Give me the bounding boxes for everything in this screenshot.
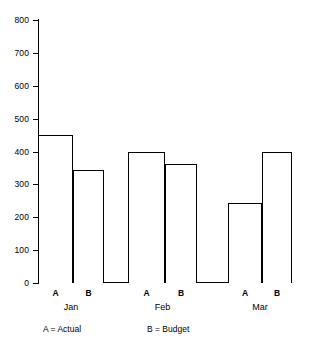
y-axis-tick: 700 xyxy=(33,53,38,54)
bar-jan-b xyxy=(73,170,104,283)
bar-feb-b xyxy=(165,164,197,283)
legend-entry-actual: A = Actual xyxy=(43,323,81,335)
y-axis-tick-label: 800 xyxy=(15,15,29,26)
bar-mar-a xyxy=(228,203,262,283)
y-axis-tick: 0 xyxy=(33,283,38,284)
x-axis-group-label-feb: Feb xyxy=(155,302,171,313)
y-axis-tick-label: 400 xyxy=(15,147,29,158)
y-axis-tick: 500 xyxy=(33,119,38,120)
legend-entry-budget: B = Budget xyxy=(147,323,189,335)
bar-feb-a xyxy=(128,152,165,284)
x-axis-group-label-jan: Jan xyxy=(64,302,79,313)
y-axis-tick: 800 xyxy=(33,20,38,21)
x-axis-bar-label: A xyxy=(52,288,58,298)
y-axis-tick-label: 600 xyxy=(15,81,29,92)
x-axis-bar-label: B xyxy=(85,288,91,298)
bar-chart: 8007006005004003002001000 ABABABJanFebMa… xyxy=(0,0,312,352)
bar-mar-b xyxy=(262,152,292,284)
x-axis-group-label-mar: Mar xyxy=(252,302,268,313)
chart-legend: A = ActualB = Budget xyxy=(0,323,312,337)
y-axis-tick-label: 200 xyxy=(15,212,29,223)
bar-jan-a xyxy=(38,135,73,283)
plot-area: 8007006005004003002001000 xyxy=(38,20,292,283)
x-axis-bar-label: B xyxy=(178,288,184,298)
x-axis-bar-label: B xyxy=(274,288,280,298)
y-axis-tick-label: 700 xyxy=(15,48,29,59)
y-axis-tick-label: 0 xyxy=(24,278,29,289)
x-axis-bar-label: A xyxy=(242,288,248,298)
x-axis-bar-label: A xyxy=(143,288,149,298)
y-axis-tick-label: 100 xyxy=(15,245,29,256)
y-axis-tick: 600 xyxy=(33,86,38,87)
y-axis-tick-label: 300 xyxy=(15,179,29,190)
y-axis-tick-label: 500 xyxy=(15,114,29,125)
